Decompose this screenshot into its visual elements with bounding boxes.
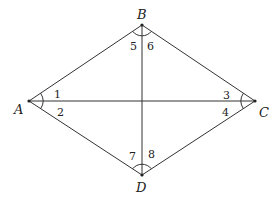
angle-label-3: 3 <box>223 89 230 102</box>
angle-label-8: 8 <box>148 148 155 161</box>
vertex-label-a: A <box>13 102 23 117</box>
angle-label-1: 1 <box>54 88 61 101</box>
angle-label-2: 2 <box>57 106 64 119</box>
vertex-dot-b <box>140 23 143 26</box>
vertex-label-b: B <box>136 7 147 22</box>
angle-label-6: 6 <box>147 40 154 53</box>
angle-label-5: 5 <box>130 40 137 53</box>
side-bc <box>142 25 255 101</box>
rhombus-diagram: A B C D 1 2 3 4 5 6 7 8 <box>0 0 273 213</box>
vertex-dot-c <box>253 99 256 102</box>
side-cd <box>142 101 255 175</box>
angle-label-7: 7 <box>129 150 136 163</box>
side-ab <box>29 25 142 101</box>
side-da <box>29 101 142 175</box>
vertex-label-c: C <box>259 105 269 120</box>
vertex-dot-a <box>27 99 30 102</box>
vertex-label-d: D <box>135 180 147 195</box>
vertex-dot-d <box>140 173 143 176</box>
angle-label-4: 4 <box>222 106 229 119</box>
